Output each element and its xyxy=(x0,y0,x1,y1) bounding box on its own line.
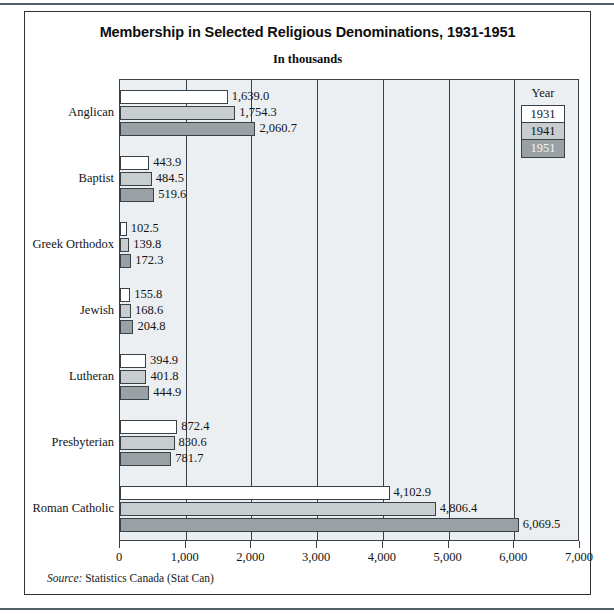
bar-1931-jewish xyxy=(120,288,130,302)
bar-1931-baptist xyxy=(120,156,149,170)
bar-1941-presbyterian xyxy=(120,436,175,450)
bar-group: 443.9484.5519.6Baptist xyxy=(120,146,578,212)
bar-1941-jewish xyxy=(120,304,131,318)
bar-1951-greek-orthodox xyxy=(120,254,131,268)
bar-group: 872.4830.6781.7Presbyterian xyxy=(120,410,578,476)
bar-1951-baptist xyxy=(120,188,154,202)
x-tick-mark xyxy=(448,541,449,548)
bar-row: 4,806.4 xyxy=(120,502,578,516)
bar-value-label: 204.8 xyxy=(137,319,165,334)
bar-1941-anglican xyxy=(120,106,235,120)
bar-value-label: 1,639.0 xyxy=(232,89,270,104)
bar-value-label: 168.6 xyxy=(135,303,163,318)
x-axis-tick-marks xyxy=(119,541,579,549)
bar-value-label: 172.3 xyxy=(135,253,163,268)
bar-1941-lutheran xyxy=(120,370,146,384)
bar-value-label: 2,060.7 xyxy=(259,121,297,136)
bar-row: 2,060.7 xyxy=(120,122,578,136)
bar-row: 401.8 xyxy=(120,370,578,384)
bar-1931-greek-orthodox xyxy=(120,222,127,236)
chart-page: Membership in Selected Religious Denomin… xyxy=(0,0,614,614)
bar-row: 444.9 xyxy=(120,386,578,400)
bar-value-label: 394.9 xyxy=(150,353,178,368)
bars-layer: 1,639.01,754.32,060.7Anglican443.9484.55… xyxy=(120,80,578,540)
legend-swatches: 193119411951 xyxy=(521,105,565,158)
bar-1941-roman-catholic xyxy=(120,502,436,516)
bar-row: 155.8 xyxy=(120,288,578,302)
bar-group: 1,639.01,754.32,060.7Anglican xyxy=(120,80,578,146)
bar-row: 443.9 xyxy=(120,156,578,170)
bar-group: 394.9401.8444.9Lutheran xyxy=(120,344,578,410)
bar-row: 394.9 xyxy=(120,354,578,368)
x-tick-mark xyxy=(579,541,580,548)
bar-1931-lutheran xyxy=(120,354,146,368)
bar-1941-greek-orthodox xyxy=(120,238,129,252)
figure-container: Membership in Selected Religious Denomin… xyxy=(24,11,591,595)
bar-value-label: 443.9 xyxy=(153,155,181,170)
bar-row: 1,639.0 xyxy=(120,90,578,104)
source-text: Statistics Canada (Stat Can) xyxy=(82,572,214,584)
bar-1931-roman-catholic xyxy=(120,486,390,500)
bar-1941-baptist xyxy=(120,172,152,186)
category-label-lutheran: Lutheran xyxy=(69,369,114,384)
bar-1931-presbyterian xyxy=(120,420,177,434)
bar-row: 484.5 xyxy=(120,172,578,186)
bar-row: 781.7 xyxy=(120,452,578,466)
bar-value-label: 4,806.4 xyxy=(440,501,478,516)
bar-value-label: 444.9 xyxy=(153,385,181,400)
bar-value-label: 102.5 xyxy=(131,221,159,236)
bar-row: 1,754.3 xyxy=(120,106,578,120)
bar-1951-anglican xyxy=(120,122,255,136)
chart-subtitle: In thousands xyxy=(25,52,590,67)
bar-row: 139.8 xyxy=(120,238,578,252)
category-label-baptist: Baptist xyxy=(79,171,114,186)
bar-value-label: 872.4 xyxy=(181,419,209,434)
bar-row: 172.3 xyxy=(120,254,578,268)
x-axis-tick-labels: 01,0002,0003,0004,0005,0006,0007,000 xyxy=(119,550,579,568)
x-tick-label: 2,000 xyxy=(236,550,264,565)
page-rule-top xyxy=(0,3,614,5)
x-tick-mark xyxy=(316,541,317,548)
page-rule-bottom xyxy=(0,608,614,610)
bar-value-label: 781.7 xyxy=(175,451,203,466)
bar-value-label: 1,754.3 xyxy=(239,105,277,120)
x-tick-label: 7,000 xyxy=(565,550,593,565)
bar-value-label: 139.8 xyxy=(133,237,161,252)
bar-value-label: 484.5 xyxy=(156,171,184,186)
source-label: Source: xyxy=(47,572,82,584)
bar-value-label: 830.6 xyxy=(179,435,207,450)
legend-item-1931[interactable]: 1931 xyxy=(522,106,564,123)
category-label-anglican: Anglican xyxy=(68,105,114,120)
source-note: Source: Statistics Canada (Stat Can) xyxy=(47,572,214,584)
bar-value-label: 155.8 xyxy=(134,287,162,302)
bar-value-label: 401.8 xyxy=(150,369,178,384)
x-tick-mark xyxy=(250,541,251,548)
category-label-presbyterian: Presbyterian xyxy=(52,435,114,450)
bar-value-label: 519.6 xyxy=(158,187,186,202)
bar-1931-anglican xyxy=(120,90,228,104)
x-tick-label: 4,000 xyxy=(368,550,396,565)
x-tick-label: 3,000 xyxy=(302,550,330,565)
bar-row: 519.6 xyxy=(120,188,578,202)
legend-item-1941[interactable]: 1941 xyxy=(522,123,564,140)
legend: Year 193119411951 xyxy=(512,86,574,158)
bar-group: 102.5139.8172.3Greek Orthodox xyxy=(120,212,578,278)
legend-title: Year xyxy=(512,86,574,101)
x-tick-mark xyxy=(185,541,186,548)
bar-1951-jewish xyxy=(120,320,133,334)
x-tick-mark xyxy=(119,541,120,548)
bar-row: 872.4 xyxy=(120,420,578,434)
bar-value-label: 6,069.5 xyxy=(523,517,561,532)
bar-row: 168.6 xyxy=(120,304,578,318)
bar-group: 4,102.94,806.46,069.5Roman Catholic xyxy=(120,476,578,542)
bar-value-label: 4,102.9 xyxy=(394,485,432,500)
bar-1951-lutheran xyxy=(120,386,149,400)
x-tick-label: 6,000 xyxy=(499,550,527,565)
legend-item-1951[interactable]: 1951 xyxy=(522,140,564,157)
bar-1951-presbyterian xyxy=(120,452,171,466)
bar-row: 204.8 xyxy=(120,320,578,334)
bar-row: 4,102.9 xyxy=(120,486,578,500)
category-label-jewish: Jewish xyxy=(80,303,114,318)
plot-area: 1,639.01,754.32,060.7Anglican443.9484.55… xyxy=(119,79,579,541)
category-label-greek-orthodox: Greek Orthodox xyxy=(32,237,114,252)
